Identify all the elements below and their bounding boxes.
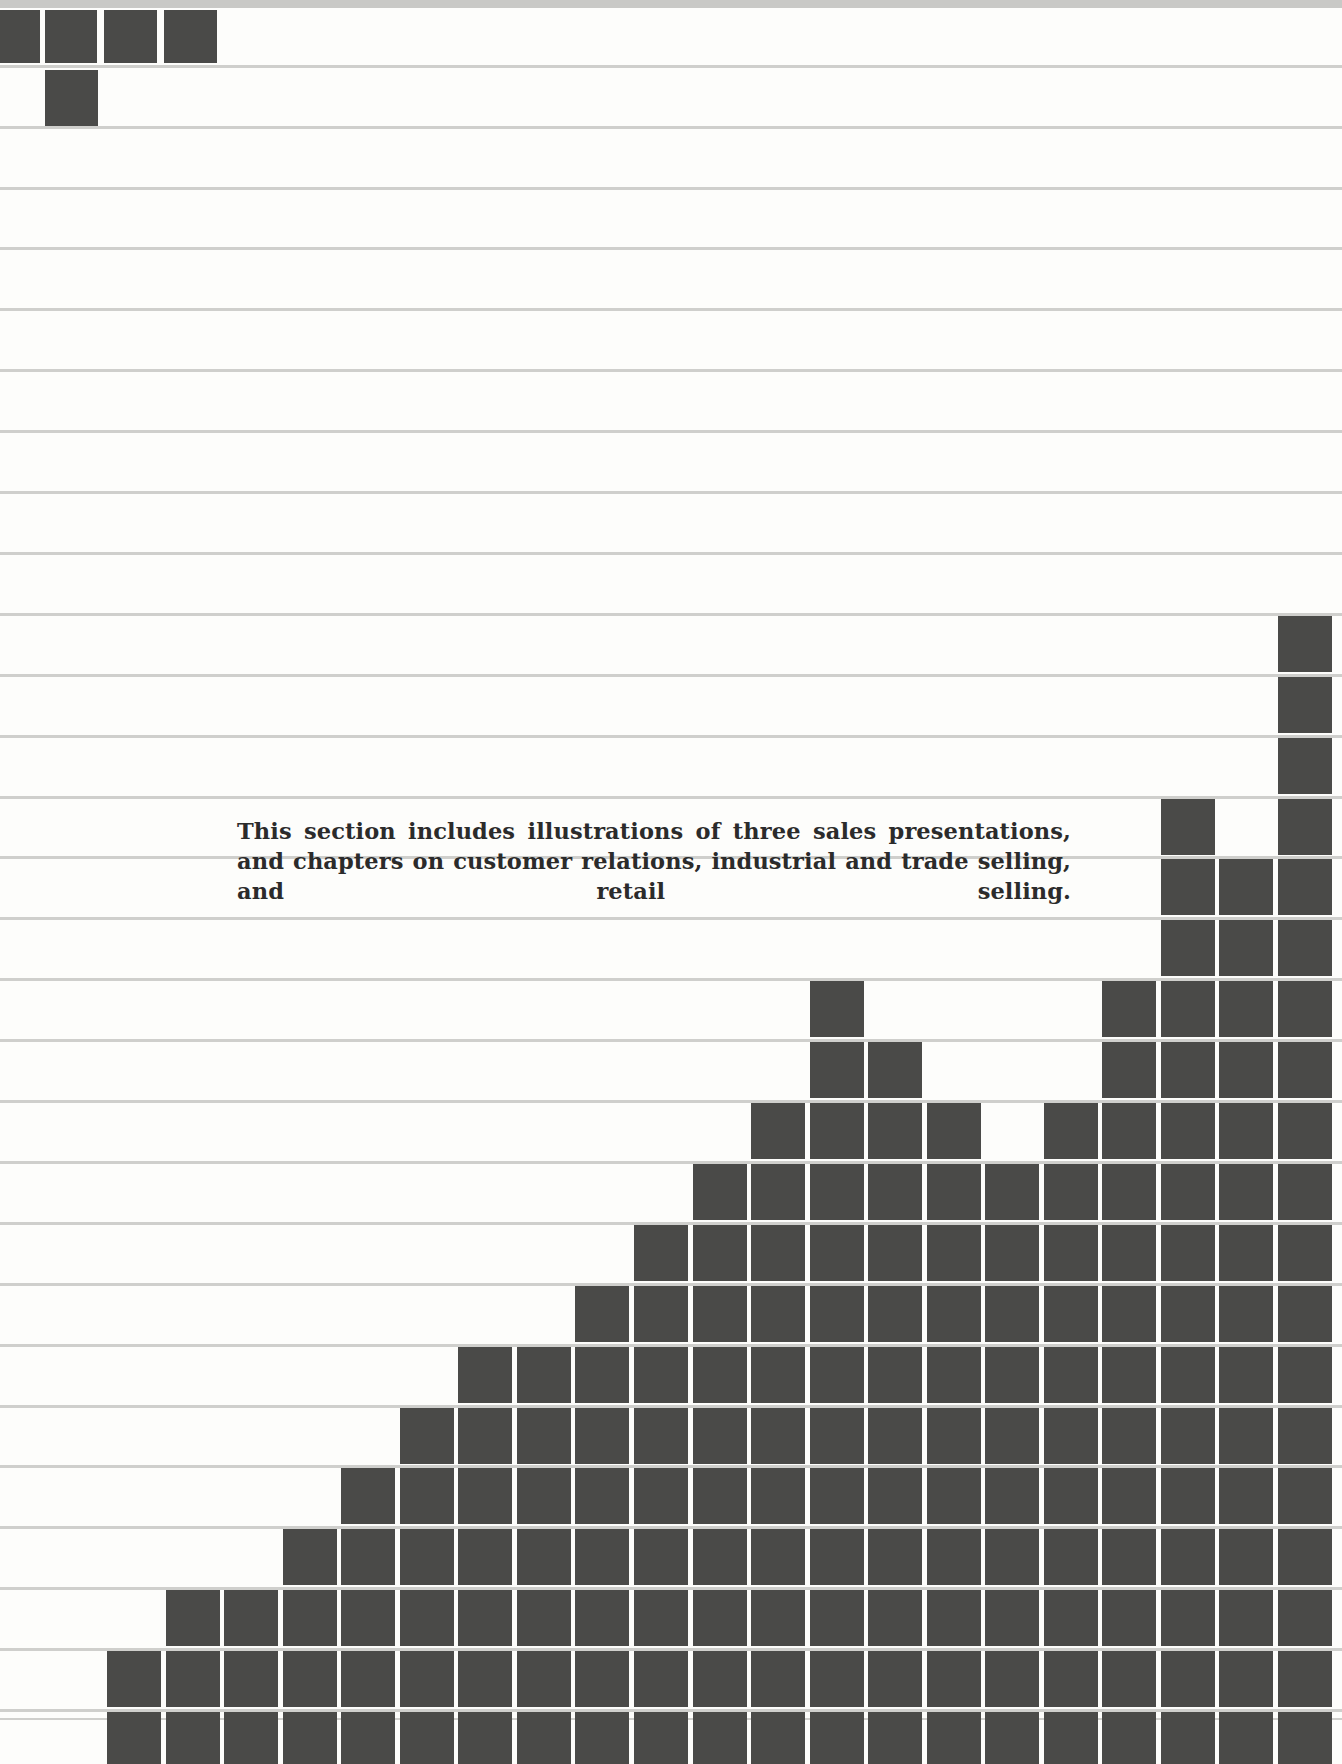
chart-block (1161, 981, 1215, 1037)
chart-block (1161, 1164, 1215, 1220)
chart-block (1278, 799, 1332, 855)
chart-block (1044, 1286, 1098, 1342)
chart-block (517, 1712, 571, 1764)
chart-block (1044, 1225, 1098, 1281)
ruled-line (0, 126, 1342, 129)
chart-block (751, 1347, 805, 1403)
chart-block (1044, 1651, 1098, 1707)
chart-block (693, 1347, 747, 1403)
chart-block (1219, 1286, 1273, 1342)
ruled-line (0, 187, 1342, 190)
chart-block (1161, 799, 1215, 855)
chart-block (1219, 981, 1273, 1037)
chart-block (1102, 1042, 1156, 1098)
chart-block (1278, 1590, 1332, 1646)
chart-block (927, 1408, 981, 1464)
chart-block (575, 1712, 629, 1764)
chart-block (400, 1590, 454, 1646)
chart-block (1219, 1529, 1273, 1585)
chart-block (751, 1225, 805, 1281)
chart-block (575, 1408, 629, 1464)
chart-block (1219, 1712, 1273, 1764)
chart-block (751, 1103, 805, 1159)
chart-block (985, 1529, 1039, 1585)
chart-block (1044, 1164, 1098, 1220)
section-intro-text: This section includes illustrations of t… (237, 816, 1071, 936)
chart-block (810, 1408, 864, 1464)
chart-block (985, 1286, 1039, 1342)
chart-block (751, 1408, 805, 1464)
chart-block (1161, 1408, 1215, 1464)
chart-block (517, 1347, 571, 1403)
chart-block (1278, 1347, 1332, 1403)
chart-block (1044, 1712, 1098, 1764)
chart-block (868, 1468, 922, 1524)
chart-block (751, 1164, 805, 1220)
chart-block (1219, 1651, 1273, 1707)
chart-block (751, 1529, 805, 1585)
chart-block (810, 1468, 864, 1524)
chart-block (751, 1590, 805, 1646)
chart-block (927, 1164, 981, 1220)
chart-block (810, 1651, 864, 1707)
chart-block (868, 1286, 922, 1342)
chart-block (810, 1103, 864, 1159)
chart-block (634, 1347, 688, 1403)
chart-block (1219, 1042, 1273, 1098)
chart-block (1278, 859, 1332, 915)
chart-block (1161, 1225, 1215, 1281)
chart-block (693, 1408, 747, 1464)
chart-block (927, 1468, 981, 1524)
chart-block (1278, 1468, 1332, 1524)
chart-block (810, 1347, 864, 1403)
chart-block (341, 1468, 395, 1524)
chart-block (868, 1408, 922, 1464)
chart-block (1102, 1712, 1156, 1764)
chart-block (341, 1712, 395, 1764)
chart-block (1278, 1712, 1332, 1764)
chart-block (927, 1712, 981, 1764)
chart-block (1278, 1164, 1332, 1220)
chart-block (1102, 1164, 1156, 1220)
chart-block (927, 1225, 981, 1281)
chart-block (166, 1712, 220, 1764)
chart-block (1044, 1529, 1098, 1585)
chart-block (693, 1286, 747, 1342)
chart-block (283, 1712, 337, 1764)
chart-block (810, 1712, 864, 1764)
chart-block (868, 1529, 922, 1585)
chart-block (1102, 1408, 1156, 1464)
chart-block (927, 1590, 981, 1646)
chart-block (458, 1712, 512, 1764)
chart-block (1278, 1408, 1332, 1464)
chart-block (1278, 677, 1332, 733)
chart-block (868, 1164, 922, 1220)
chart-block (927, 1651, 981, 1707)
chart-block (1161, 1712, 1215, 1764)
chart-block (1161, 1042, 1215, 1098)
chart-block (1102, 1225, 1156, 1281)
chart-block (985, 1225, 1039, 1281)
chart-block (693, 1225, 747, 1281)
chart-block (1219, 1408, 1273, 1464)
chart-block (283, 1529, 337, 1585)
ruled-line (0, 65, 1342, 68)
chart-block (341, 1651, 395, 1707)
chart-block (634, 1468, 688, 1524)
ruled-line (0, 247, 1342, 250)
chart-block (458, 1468, 512, 1524)
chart-block (634, 1225, 688, 1281)
chart-block (868, 1712, 922, 1764)
chart-block (1161, 1347, 1215, 1403)
chart-block (1278, 1042, 1332, 1098)
chart-block (985, 1408, 1039, 1464)
chart-block (1278, 1103, 1332, 1159)
chart-block (458, 1529, 512, 1585)
ruled-line (0, 552, 1342, 555)
chart-block (868, 1225, 922, 1281)
chart-block (751, 1468, 805, 1524)
chart-block (868, 1347, 922, 1403)
chart-block (868, 1590, 922, 1646)
chart-block (1219, 1164, 1273, 1220)
ruled-line (0, 674, 1342, 677)
